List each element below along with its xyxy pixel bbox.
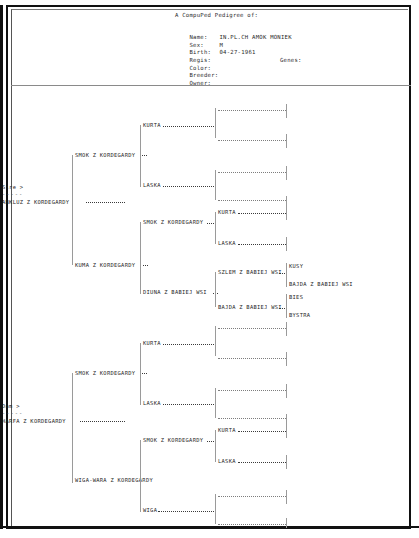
dam-g4-smok-kurta: KURTA	[218, 427, 236, 433]
dam-name: HARFA Z KORDEGARDY	[2, 418, 66, 424]
sire-g4-smok-laska: LASKA	[218, 240, 236, 246]
sire-g3-kurta: KURTA	[143, 122, 161, 128]
sire-marker: Sire >	[2, 184, 23, 191]
dam-g4-wiga-slot-1	[218, 496, 286, 497]
dam-g4-smok-laska: LASKA	[218, 458, 236, 464]
sire-g4-smok-kurta-leader	[238, 213, 286, 214]
sire-g3-laska: LASKA	[143, 182, 161, 188]
sire-g5-szlem-bracket	[286, 263, 287, 287]
dam-g3-bottom-bracket	[140, 440, 141, 512]
far-right-bracket-13	[286, 490, 287, 504]
dam-leader	[80, 421, 125, 422]
sire-g3-laska-leader	[163, 186, 216, 187]
sire-g4-kurta-slot-1	[218, 110, 286, 111]
dam-marker: Dam >	[2, 403, 20, 410]
sire-g4-bajda-leader	[279, 308, 285, 309]
far-right-bracket-14	[286, 518, 287, 528]
dam-g4-smok-kurta-leader	[238, 431, 286, 432]
pedigree-tree: Sire > ----- ANKLUZ Z KORDEGARDY SMOK Z …	[0, 0, 419, 538]
dam-dots: -----	[2, 410, 23, 416]
far-right-bracket-2	[286, 134, 287, 148]
sire-g4-laska-bracket	[215, 170, 216, 200]
dam-g4-wiga-bracket	[215, 494, 216, 524]
dam-bracket	[72, 373, 73, 483]
dam-g4-kurta-bracket	[215, 326, 216, 356]
sire-g2-top-leader	[140, 155, 147, 156]
dam-g3-laska-leader	[163, 404, 216, 405]
sire-g4-bajda: BAJDA Z BABIEJ WSI	[218, 304, 282, 310]
dam-g2-top: SMOK Z KORDEGARDY	[75, 370, 135, 376]
far-right-bracket-12	[286, 455, 287, 469]
dam-g3-kurta-leader	[163, 344, 216, 345]
dam-g3-wiga: WIGA	[143, 507, 157, 513]
sire-g5-kusy: KUSY	[289, 263, 303, 269]
sire-dots: -----	[2, 191, 23, 197]
dam-g3-kurta: KURTA	[143, 340, 161, 346]
sire-g4-szlem-leader	[279, 273, 285, 274]
far-right-bracket-5	[286, 206, 287, 220]
sire-g4-laska-slot-1	[218, 172, 286, 173]
sire-g4-smok-kurta: KURTA	[218, 209, 236, 215]
sire-g3-diuna: DIUNA Z BABIEJ WSI	[143, 289, 207, 295]
dam-g2-bottom: WIGA-WARA Z KORDEGARDY	[75, 477, 153, 483]
sire-g4-laska-slot-2	[218, 200, 286, 201]
dam-g3-top-bracket	[140, 343, 141, 405]
dam-g3-smok: SMOK Z KORDEGARDY	[143, 437, 203, 443]
sire-g4-szlem: SZLEM Z BABIEJ WSI	[218, 269, 282, 275]
sire-g3-top-bracket	[140, 125, 141, 187]
sire-g5-bies: BIES	[289, 294, 303, 300]
sire-g4-kurta-slot-2	[218, 140, 286, 141]
far-right-bracket-9	[286, 384, 287, 398]
sire-leader	[86, 202, 125, 203]
sire-g2-bottom-leader	[143, 265, 148, 266]
sire-g5-bajda: BAJDA Z BABIEJ WSI	[289, 281, 353, 287]
sire-g4-kurta-bracket	[215, 108, 216, 138]
dam-g2-top-leader	[140, 373, 147, 374]
sire-name: ANKLUZ Z KORDEGARDY	[2, 199, 69, 205]
dam-g4-smok-bracket	[215, 430, 216, 462]
sire-g3-smok: SMOK Z KORDEGARDY	[143, 219, 203, 225]
far-right-bracket-7	[286, 322, 287, 336]
sire-g3-bottom-bracket	[140, 222, 141, 294]
sire-g4-smok-laska-leader	[238, 244, 286, 245]
dam-g3-laska: LASKA	[143, 400, 161, 406]
sire-g2-top: SMOK Z KORDEGARDY	[75, 152, 135, 158]
dam-g4-laska-slot-2	[218, 418, 286, 419]
sire-g5-bystra: BYSTRA	[289, 312, 310, 318]
dam-g3-wiga-leader	[158, 511, 216, 512]
dam-g4-laska-bracket	[215, 388, 216, 418]
dam-g4-kurta-slot-2	[218, 358, 286, 359]
sire-g2-bottom: KUMA Z KORDEGARDY	[75, 262, 135, 268]
sire-g5-bajda-bracket	[286, 294, 287, 318]
far-right-bracket-3	[286, 166, 287, 180]
dam-g4-kurta-slot-1	[218, 328, 286, 329]
sire-bracket	[72, 155, 73, 265]
dam-g4-smok-laska-leader	[238, 462, 286, 463]
far-right-bracket-1	[286, 104, 287, 118]
sire-g4-diuna-bracket	[215, 272, 216, 307]
dam-g4-laska-slot-1	[218, 390, 286, 391]
far-right-bracket-11	[286, 424, 287, 438]
sire-g3-kurta-leader	[163, 126, 216, 127]
far-right-bracket-8	[286, 352, 287, 366]
far-right-bracket-6	[286, 237, 287, 251]
sire-g4-smok-bracket	[215, 212, 216, 244]
dam-g4-wiga-slot-2	[218, 524, 286, 525]
